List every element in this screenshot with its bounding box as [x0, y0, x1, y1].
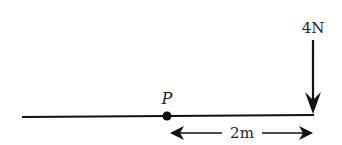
dimension-label: 2m — [230, 124, 254, 142]
point-p-dot — [163, 112, 172, 121]
point-p-label: P — [161, 89, 173, 108]
force-label: 4N — [302, 19, 325, 37]
force-diagram: P 4N 2m — [0, 0, 342, 145]
